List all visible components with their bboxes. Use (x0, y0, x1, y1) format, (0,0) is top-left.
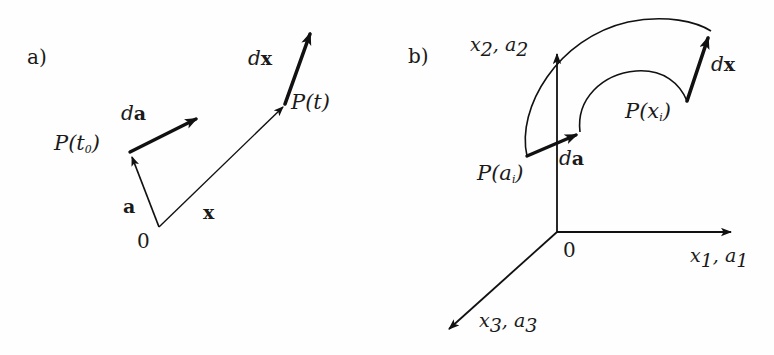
label-x2-subscript: 2 (481, 38, 493, 60)
label-a1: a (725, 244, 736, 266)
label-a3-subscript: 3 (525, 314, 537, 336)
panel-a-tag: a) (27, 47, 47, 67)
vector-x-line (159, 107, 283, 227)
label-vector-x: x (261, 47, 272, 69)
label-x1-subscript: 1 (701, 249, 713, 271)
label-d-prefix: d (711, 52, 724, 76)
label-P: P (625, 99, 639, 123)
label-vector-x: x (724, 53, 735, 75)
label-paren-close: ) (515, 161, 523, 185)
panel-a-label-P-t: P(t) (291, 92, 330, 113)
panel-a-label-x: x (203, 203, 214, 222)
vector-a-line (132, 157, 159, 227)
label-paren-close: ) (92, 131, 100, 155)
label-d-prefix: d (248, 46, 261, 70)
panel-a-label-da: da (121, 103, 146, 123)
label-x: x (647, 99, 659, 123)
label-t: t (313, 90, 321, 114)
label-x3-subscript: 3 (490, 314, 502, 336)
label-comma: , (713, 244, 725, 266)
label-x3: x (479, 309, 490, 331)
label-d-prefix: d (559, 146, 572, 170)
vector-dx-line-b (687, 38, 708, 101)
panel-b-label-dx: dx (711, 54, 735, 74)
label-vector-a: a (134, 102, 146, 124)
label-a1-subscript: 1 (736, 249, 748, 271)
label-x1: x (690, 244, 701, 266)
panel-b-label-da: da (559, 148, 584, 168)
label-x2: x (470, 33, 481, 55)
panel-a-label-P-t0: P(t0) (54, 133, 100, 156)
label-comma: , (493, 33, 505, 55)
label-comma: , (502, 309, 514, 331)
panel-b-label-P-xi: P(xi) (625, 101, 671, 124)
label-P: P (291, 90, 305, 114)
panel-a-label-dx: dx (248, 48, 272, 68)
label-t: t (76, 131, 84, 155)
label-a3: a (514, 309, 525, 331)
label-paren-close: ) (663, 99, 671, 123)
label-a2: a (505, 33, 516, 55)
panel-b-label-P-ai: P(ai) (477, 163, 524, 186)
panel-a-label-origin: 0 (137, 231, 150, 251)
label-t-subscript: 0 (85, 143, 92, 156)
label-vector-a: a (572, 147, 584, 169)
panel-a-label-a: a (123, 197, 135, 216)
label-P: P (477, 161, 491, 185)
panel-b-axis-label-x1-a1: x1, a1 (690, 246, 748, 270)
diagram-artwork (0, 0, 774, 355)
panel-b-axis-label-x2-a2: x2, a2 (470, 35, 528, 59)
label-d-prefix: d (121, 101, 134, 125)
panel-b-tag: b) (408, 46, 429, 66)
upper-trajectory-curve (525, 19, 711, 156)
label-a2-subscript: 2 (516, 38, 528, 60)
panel-b-axis-label-x3-a3: x3, a3 (479, 311, 537, 335)
label-P: P (54, 131, 68, 155)
vector-kinematics-figure: a) P(t0) da a 0 x dx P(t) b) x2, a2 P(ai… (0, 0, 774, 355)
panel-b-label-origin: 0 (563, 240, 576, 260)
label-a: a (499, 161, 512, 185)
label-paren-close: ) (322, 90, 330, 114)
